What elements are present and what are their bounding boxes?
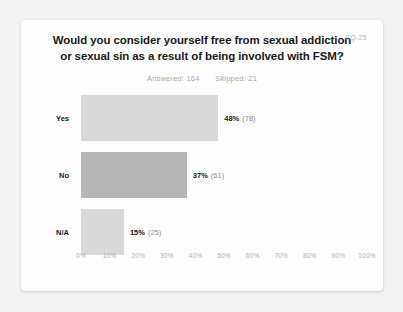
axis-tick-label: 30% — [160, 252, 174, 259]
skipped-count: Skipped: 21 — [215, 74, 257, 83]
bar-percent: 37% — [193, 170, 208, 179]
bar-value-label: 48%(78) — [218, 113, 255, 122]
card-header: Would you consider yourself free from se… — [21, 20, 383, 83]
bar-track: 48%(78) — [81, 95, 367, 141]
axis-tick-label: 0% — [76, 252, 86, 259]
axis-tick-label: 100% — [358, 252, 375, 259]
bar-track: 37%(61) — [81, 152, 367, 198]
axis-tick-label: 50% — [217, 252, 231, 259]
x-axis: 0%10%20%30%40%50%60%70%80%90%100% — [81, 252, 367, 264]
bar-category-label: No — [21, 170, 75, 179]
bar-track: 15%(25) — [81, 209, 367, 255]
bar-value-label: 37%(61) — [187, 170, 224, 179]
question-code-label: SQ-25 — [345, 34, 367, 41]
bar-percent: 48% — [224, 113, 239, 122]
page-title: Would you consider yourself free from se… — [49, 32, 355, 65]
bar-row: No37%(61) — [21, 152, 383, 198]
bar-row: Yes48%(78) — [21, 95, 383, 141]
survey-result-card: Would you consider yourself free from se… — [21, 20, 383, 291]
bar-category-label: N/A — [21, 227, 75, 236]
bar-chart: Yes48%(78)No37%(61)N/A15%(25) 0%10%20%30… — [21, 95, 383, 270]
axis-tick-label: 90% — [332, 252, 346, 259]
bar-row: N/A15%(25) — [21, 209, 383, 255]
axis-tick-label: 70% — [274, 252, 288, 259]
bar-rows: Yes48%(78)No37%(61)N/A15%(25) — [21, 95, 383, 255]
bar-category-label: Yes — [21, 113, 75, 122]
bar-fill — [81, 152, 187, 198]
bar-fill — [81, 209, 124, 255]
bar-count: (78) — [242, 113, 255, 122]
axis-tick-label: 10% — [103, 252, 117, 259]
bar-fill — [81, 95, 218, 141]
answered-count: Answered: 164 — [147, 74, 200, 83]
bar-count: (25) — [148, 227, 161, 236]
axis-tick-label: 60% — [246, 252, 260, 259]
bar-count: (61) — [211, 170, 224, 179]
axis-tick-label: 20% — [131, 252, 145, 259]
axis-tick-label: 40% — [189, 252, 203, 259]
response-summary: Answered: 164 Skipped: 21 — [35, 74, 369, 83]
bar-value-label: 15%(25) — [124, 227, 161, 236]
axis-tick-label: 80% — [303, 252, 317, 259]
bar-percent: 15% — [130, 227, 145, 236]
